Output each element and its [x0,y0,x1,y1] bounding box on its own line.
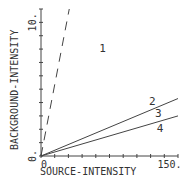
x-tick-label: 150. [157,159,181,170]
series-dashed-boundary [41,9,69,156]
annotations-group: 1234 [99,42,163,135]
region-label: 4 [157,122,164,135]
region-label: 1 [99,42,106,55]
y-tick-label: 0. [27,150,38,162]
axes: 0.150.0.10. [27,9,181,170]
x-axis-label: SOURCE-INTENSITY [40,166,136,177]
y-tick-label: 10. [27,13,38,31]
chart: 0.150.0.10. 1234 SOURCE-INTENSITY BACKGR… [0,0,189,182]
y-axis-label: BACKGROUND-INTENSITY [9,30,20,150]
region-label: 3 [155,107,162,120]
